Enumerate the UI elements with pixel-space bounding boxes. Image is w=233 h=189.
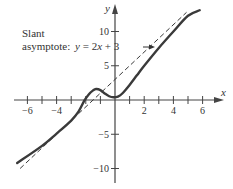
annotation-arrow (143, 45, 155, 50)
axes (14, 4, 224, 183)
svg-text:−5: −5 (98, 129, 109, 140)
svg-text:10: 10 (99, 26, 109, 37)
annotation-asymptote-word: asymptote: (22, 40, 70, 52)
y-axis-label: y (104, 2, 110, 14)
annotation-line2: asymptote: y = 2x + 3 (22, 40, 119, 53)
svg-text:−4: −4 (51, 105, 62, 116)
x-axis-label: x (220, 86, 226, 98)
svg-text:−10: −10 (93, 163, 109, 174)
annotation-equation: y = 2x + 3 (75, 40, 119, 52)
svg-text:4: 4 (171, 105, 176, 116)
svg-text:−6: −6 (22, 105, 33, 116)
annotation-line1: Slant (22, 27, 45, 40)
svg-text:5: 5 (104, 60, 109, 71)
svg-text:2: 2 (142, 105, 147, 116)
svg-text:6: 6 (200, 105, 205, 116)
